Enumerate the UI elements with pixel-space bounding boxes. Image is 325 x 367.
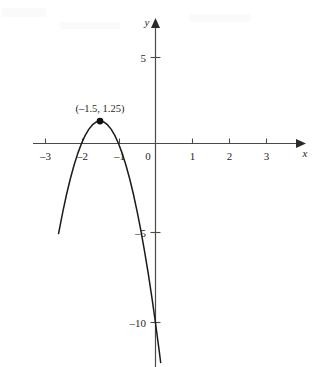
origin-label: 0 [145, 150, 151, 162]
y-tick-label--10: –10 [129, 317, 147, 329]
y-axis-arrowhead [151, 18, 160, 28]
x-tick-label--3: –3 [39, 150, 52, 162]
y-axis-tick-labels: 5 –5 –10 [129, 52, 147, 329]
graph-figure: –3 –2 –1 0 1 2 3 5 –5 –10 x y (–1.5, 1.2… [0, 0, 325, 367]
y-axis-label: y [144, 16, 150, 28]
x-axis-label: x [302, 147, 308, 159]
x-axis-tick-labels: –3 –2 –1 0 1 2 3 [39, 150, 270, 162]
vertex-annotation-label: (–1.5, 1.25) [76, 103, 125, 115]
x-tick-label-2: 2 [227, 150, 233, 162]
x-tick-label-1: 1 [190, 150, 196, 162]
y-tick-label-5: 5 [141, 52, 147, 64]
coordinate-plane-plot: –3 –2 –1 0 1 2 3 5 –5 –10 x y (–1.5, 1.2… [0, 0, 325, 367]
vertex-point-marker [97, 118, 104, 125]
x-tick-label-3: 3 [264, 150, 270, 162]
axis-lines [33, 18, 306, 367]
